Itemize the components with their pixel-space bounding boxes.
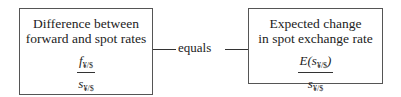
connector-line-right — [225, 49, 248, 50]
numerator-sub: ¥/$ — [317, 61, 327, 70]
right-title-line1: Expected change — [249, 16, 382, 31]
left-title-line2: forward and spot rates — [20, 31, 152, 46]
numerator-sub: ¥/$ — [83, 61, 93, 70]
equals-label: equals — [178, 40, 211, 56]
right-fraction: E(s¥/$) s¥/$ — [298, 53, 334, 93]
forward-spot-difference-box: Difference between forward and spot rate… — [19, 8, 153, 95]
left-fraction: f¥/$ s¥/$ — [77, 53, 95, 93]
numerator-suffix: ) — [327, 53, 331, 68]
right-title-line2: in spot exchange rate — [249, 31, 382, 46]
denominator-sub: ¥/$ — [83, 84, 93, 93]
left-box-title: Difference between forward and spot rate… — [20, 16, 152, 46]
expected-change-box: Expected change in spot exchange rate E(… — [248, 8, 383, 84]
numerator-prefix: E( — [300, 53, 312, 68]
right-denominator: s¥/$ — [298, 73, 334, 93]
left-denominator: s¥/$ — [77, 73, 95, 93]
denominator-sub: ¥/$ — [313, 84, 323, 93]
left-numerator: f¥/$ — [77, 53, 95, 73]
right-numerator: E(s¥/$) — [298, 53, 334, 73]
left-title-line1: Difference between — [20, 16, 152, 31]
right-box-title: Expected change in spot exchange rate — [249, 16, 382, 46]
connector-line-left — [153, 49, 176, 50]
